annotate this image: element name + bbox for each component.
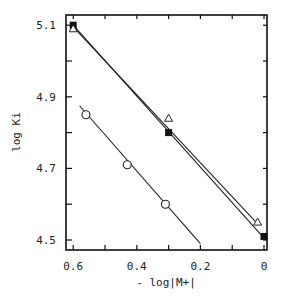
axis-tick-labels: 0.60.40.204.54.74.95.1: [36, 19, 267, 273]
x-tick-label: 0.4: [127, 260, 147, 273]
x-tick-label: 0.6: [63, 260, 83, 273]
y-tick-label: 4.7: [36, 162, 56, 175]
y-tick-label: 4.9: [36, 91, 56, 104]
x-axis-title: - log|M+|: [136, 276, 196, 289]
filled-square-marker: [261, 233, 268, 240]
open-circle-marker: [123, 161, 131, 169]
open-circle-fit-line: [80, 106, 201, 244]
open-circle-marker: [161, 200, 169, 208]
chart: 0.60.40.204.54.74.95.1 - log|M+| log Ki: [0, 0, 282, 302]
y-tick-label: 4.5: [36, 234, 56, 247]
open-triangle-fit-line: [73, 27, 257, 224]
x-tick-label: 0: [261, 260, 268, 273]
open-circle-marker: [82, 111, 90, 119]
y-tick-label: 5.1: [36, 19, 56, 32]
open-triangle-marker: [165, 114, 173, 121]
x-tick-label: 0.2: [190, 260, 210, 273]
y-axis-title: log Ki: [10, 112, 23, 152]
filled-square-marker: [165, 129, 172, 136]
